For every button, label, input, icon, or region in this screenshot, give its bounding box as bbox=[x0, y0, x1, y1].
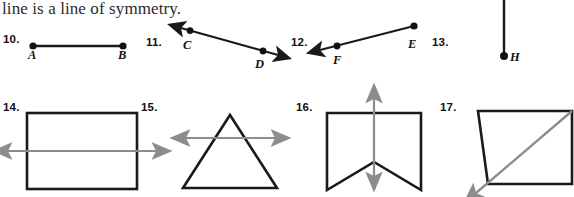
item-number-12: 12. bbox=[291, 36, 308, 48]
figure-rectangle-symmetry bbox=[0, 106, 160, 194]
triangle-outline bbox=[183, 115, 277, 188]
point-label-h: H bbox=[510, 50, 520, 65]
item-number-11: 11. bbox=[146, 36, 162, 48]
item-number-16: 16. bbox=[296, 101, 313, 113]
instruction-text: line is a line of symmetry. bbox=[2, 0, 181, 19]
point-label-d: D bbox=[255, 57, 264, 72]
item-number-15: 15. bbox=[141, 101, 158, 113]
item-number-13: 13. bbox=[432, 36, 449, 48]
point-label-c: C bbox=[183, 38, 191, 53]
point-label-b: B bbox=[118, 48, 126, 63]
figure-chevron-symmetry bbox=[318, 96, 438, 197]
point-c-dot bbox=[187, 27, 194, 34]
point-label-f: F bbox=[333, 53, 341, 68]
item-number-17: 17. bbox=[440, 101, 457, 113]
item-number-10: 10. bbox=[3, 33, 20, 45]
point-d-dot bbox=[260, 48, 267, 55]
point-e-dot bbox=[410, 22, 417, 29]
point-label-e: E bbox=[408, 37, 416, 52]
point-f-dot bbox=[334, 43, 341, 50]
point-label-g: G bbox=[509, 0, 518, 4]
point-label-a: A bbox=[28, 48, 36, 63]
figure-triangle-symmetry bbox=[172, 106, 292, 194]
symmetry-line-diagonal-17 bbox=[476, 111, 572, 193]
figure-trapezoid-symmetry bbox=[462, 96, 574, 197]
worksheet-page: line is a line of symmetry. 10. A B 11. … bbox=[0, 0, 574, 197]
point-h-dot bbox=[500, 52, 508, 60]
